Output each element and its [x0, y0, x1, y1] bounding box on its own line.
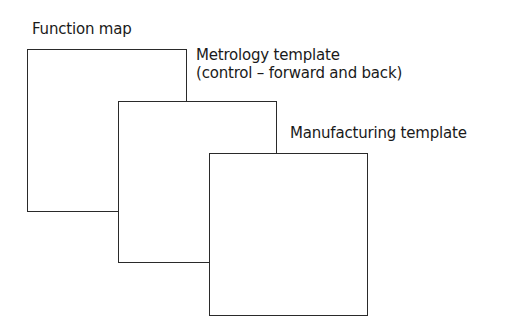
metrology-template-label: Metrology template [196, 46, 340, 64]
function-map-label: Function map [32, 20, 132, 38]
metrology-template-sublabel: (control – forward and back) [196, 64, 402, 82]
manufacturing-template-box [209, 153, 368, 316]
manufacturing-template-label: Manufacturing template [290, 124, 467, 142]
